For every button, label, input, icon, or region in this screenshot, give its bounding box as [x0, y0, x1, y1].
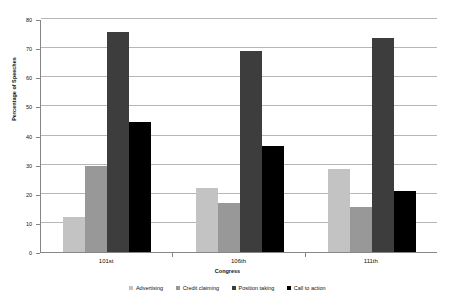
legend-swatch [129, 286, 133, 290]
bar [107, 32, 129, 252]
plot-area [40, 20, 437, 253]
legend-item: Credit claiming [176, 285, 219, 291]
y-tick-label: 50 [0, 104, 32, 110]
y-tick-label: 10 [0, 221, 32, 227]
bar-chart: Percentage of Speeches 01020304050607080… [0, 0, 455, 302]
bar [394, 191, 416, 252]
legend-item: Position taking [232, 285, 274, 291]
y-tick-label: 30 [0, 163, 32, 169]
bar [63, 217, 85, 252]
bar [372, 38, 394, 252]
bar [85, 166, 107, 252]
legend-swatch [287, 286, 291, 290]
y-tick-label: 70 [0, 46, 32, 52]
legend-item: Advertising [129, 285, 163, 291]
y-tick-mark [36, 253, 40, 254]
y-tick-label: 20 [0, 192, 32, 198]
legend-label: Advertising [136, 285, 163, 291]
y-tick-label: 60 [0, 75, 32, 81]
legend-swatch [176, 286, 180, 290]
x-tick-mark [172, 253, 173, 257]
legend-label: Call to action [294, 285, 326, 291]
bar [218, 203, 240, 253]
x-tick-mark [305, 253, 306, 257]
gridline [41, 18, 437, 19]
bar [240, 51, 262, 252]
legend-label: Position taking [239, 285, 275, 291]
bar [196, 188, 218, 252]
bar [328, 169, 350, 252]
y-tick-label: 0 [0, 250, 32, 256]
legend-label: Credit claiming [183, 285, 219, 291]
y-tick-label: 80 [0, 17, 32, 23]
x-axis-title: Congress [0, 268, 455, 274]
chart-legend: AdvertisingCredit claimingPosition takin… [0, 285, 455, 291]
legend-item: Call to action [287, 285, 325, 291]
x-group-label: 106th [172, 258, 304, 264]
x-group-label: 111th [305, 258, 437, 264]
bar [129, 122, 151, 252]
x-group-label: 101st [40, 258, 172, 264]
y-tick-label: 40 [0, 134, 32, 140]
legend-swatch [232, 286, 236, 290]
bar [262, 146, 284, 252]
bar [350, 207, 372, 252]
